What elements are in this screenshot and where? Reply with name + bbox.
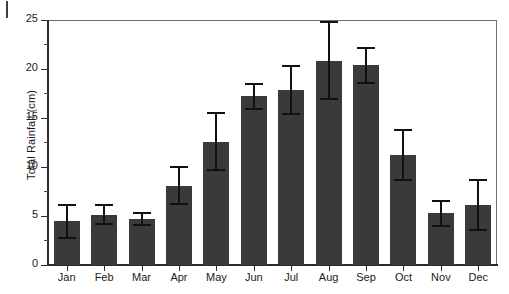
- rainfall-bar-chart: Total Rainfall (cm) 0510152025 JanFebMar…: [0, 0, 509, 294]
- y-axis-title: Total Rainfall (cm): [25, 65, 37, 205]
- error-bar-stem: [365, 48, 367, 82]
- y-axis-tick: [41, 69, 48, 70]
- error-bar-cap-upper: [207, 112, 225, 114]
- error-bar-cap-lower: [432, 225, 450, 227]
- error-bar-cap-upper: [469, 179, 487, 181]
- corner-registration-mark: [6, 1, 8, 18]
- x-axis-tick-label: Mar: [122, 271, 162, 283]
- error-bar-cap-upper: [432, 200, 450, 202]
- x-axis-tick-label: Feb: [84, 271, 124, 283]
- x-axis-tick-label: Nov: [421, 271, 461, 283]
- error-bar-stem: [215, 113, 217, 170]
- error-bar-stem: [103, 205, 105, 224]
- y-axis-tick-label: 15: [18, 111, 38, 122]
- error-bar-stem: [328, 22, 330, 99]
- error-bar-cap-lower: [207, 169, 225, 171]
- y-axis-minor-tick: [44, 93, 48, 94]
- x-axis-tick-label: Apr: [159, 271, 199, 283]
- error-bar-cap-lower: [95, 223, 113, 225]
- x-axis-tick-label: Sep: [346, 271, 386, 283]
- error-bar-stem: [290, 66, 292, 114]
- error-bar-stem: [477, 180, 479, 230]
- error-bar-cap-lower: [170, 203, 188, 205]
- error-bar-cap-upper: [245, 83, 263, 85]
- y-axis-minor-tick: [44, 191, 48, 192]
- error-bar-cap-upper: [394, 129, 412, 131]
- x-axis-tick-label: May: [196, 271, 236, 283]
- x-axis-tick-label: Oct: [383, 271, 423, 283]
- error-bar-cap-upper: [282, 65, 300, 67]
- y-axis-tick-label: 20: [18, 62, 38, 73]
- x-axis-tick-label: Jul: [271, 271, 311, 283]
- x-axis-tick-label: Jun: [234, 271, 274, 283]
- y-axis-tick: [41, 216, 48, 217]
- error-bar-cap-upper: [58, 204, 76, 206]
- x-axis-tick-label: Aug: [309, 271, 349, 283]
- y-axis-tick: [41, 167, 48, 168]
- error-bar-cap-upper: [357, 47, 375, 49]
- error-bar-cap-lower: [469, 229, 487, 231]
- error-bar-cap-lower: [245, 108, 263, 110]
- bar: [353, 65, 379, 265]
- y-axis-tick-label: 5: [18, 209, 38, 220]
- y-axis-tick: [41, 20, 48, 21]
- error-bar-cap-lower: [357, 82, 375, 84]
- error-bar-cap-lower: [394, 179, 412, 181]
- error-bar-cap-lower: [320, 98, 338, 100]
- bar: [129, 219, 155, 265]
- x-axis-tick-label: Dec: [458, 271, 498, 283]
- y-axis-tick-label: 25: [18, 13, 38, 24]
- y-axis-minor-tick: [44, 240, 48, 241]
- error-bar-cap-lower: [58, 237, 76, 239]
- y-axis-tick-label: 10: [18, 160, 38, 171]
- y-axis-minor-tick: [44, 44, 48, 45]
- error-bar-cap-upper: [320, 21, 338, 23]
- error-bar-stem: [253, 84, 255, 109]
- error-bar-cap-lower: [282, 113, 300, 115]
- bar: [241, 96, 267, 265]
- y-axis-spine: [47, 20, 49, 266]
- error-bar-cap-lower: [133, 224, 151, 226]
- error-bar-stem: [402, 130, 404, 180]
- x-axis-tick-label: Jan: [47, 271, 87, 283]
- y-axis-tick: [41, 265, 48, 266]
- error-bar-stem: [440, 201, 442, 226]
- y-axis-tick: [41, 118, 48, 119]
- y-axis-tick-label: 0: [18, 258, 38, 269]
- error-bar-stem: [178, 167, 180, 204]
- error-bar-cap-upper: [170, 166, 188, 168]
- y-axis-minor-tick: [44, 142, 48, 143]
- error-bar-stem: [66, 205, 68, 237]
- bar: [278, 90, 304, 265]
- error-bar-cap-upper: [95, 204, 113, 206]
- error-bar-cap-upper: [133, 212, 151, 214]
